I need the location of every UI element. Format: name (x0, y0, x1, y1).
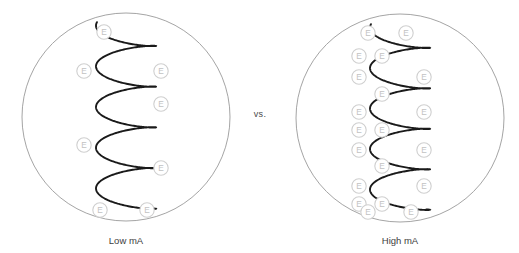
electron-marker: E (375, 49, 389, 63)
electron-marker: E (375, 159, 389, 173)
electron-label: E (408, 207, 414, 217)
electron-label: E (421, 145, 427, 155)
electron-label: E (365, 28, 371, 38)
electron-marker: E (417, 143, 431, 157)
figure-canvas: EEEEEEEEEEEEEEEEEEEEEEEEEEEE vs. Low mA … (0, 0, 519, 253)
electron-label: E (81, 66, 87, 76)
electron-marker: E (352, 49, 366, 63)
electron-marker: E (93, 203, 107, 217)
electron-label: E (144, 205, 150, 215)
panel-caption-low-ma: Low mA (41, 235, 211, 246)
electron-marker: E (352, 105, 366, 119)
electron-marker: E (154, 161, 168, 175)
electron-marker: E (361, 26, 375, 40)
electron-label: E (356, 199, 362, 209)
electron-label: E (421, 181, 427, 191)
electron-marker: E (154, 64, 168, 78)
electron-label: E (403, 28, 409, 38)
electron-marker: E (352, 179, 366, 193)
electron-label: E (379, 51, 385, 61)
panel-low-ma: EEEEEEEE (22, 13, 230, 221)
electron-label: E (81, 140, 87, 150)
vs-separator-label: vs. (238, 109, 282, 119)
electron-label: E (379, 125, 385, 135)
electron-marker: E (77, 138, 91, 152)
electron-label: E (379, 199, 385, 209)
electron-label: E (379, 89, 385, 99)
electron-marker: E (140, 203, 154, 217)
panel-high-ma: EEEEEEEEEEEEEEEEEEEE (296, 14, 504, 222)
electron-label: E (356, 107, 362, 117)
electron-marker: E (375, 197, 389, 211)
electron-label: E (97, 205, 103, 215)
comparison-diagram: EEEEEEEEEEEEEEEEEEEEEEEEEEEE (0, 0, 519, 253)
electron-marker: E (375, 87, 389, 101)
electron-label: E (421, 107, 427, 117)
electron-label: E (356, 145, 362, 155)
electron-label: E (356, 72, 362, 82)
panel-caption-high-ma: High mA (315, 235, 485, 246)
electron-label: E (158, 99, 164, 109)
electron-marker: E (399, 26, 413, 40)
electron-marker: E (77, 64, 91, 78)
electron-label: E (356, 125, 362, 135)
electron-marker: E (404, 205, 418, 219)
electron-label: E (158, 163, 164, 173)
electron-marker: E (417, 105, 431, 119)
electron-label: E (365, 207, 371, 217)
electron-marker: E (375, 123, 389, 137)
electron-marker: E (417, 70, 431, 84)
electron-marker: E (361, 205, 375, 219)
electron-label: E (356, 181, 362, 191)
electron-label: E (379, 161, 385, 171)
electron-marker: E (352, 143, 366, 157)
electron-label: E (101, 27, 107, 37)
electron-marker: E (352, 123, 366, 137)
electron-label: E (356, 51, 362, 61)
electron-label: E (158, 66, 164, 76)
electron-marker: E (417, 179, 431, 193)
body-outline-low-ma (22, 13, 230, 221)
electron-label: E (421, 72, 427, 82)
electron-marker: E (97, 25, 111, 39)
electron-marker: E (154, 97, 168, 111)
electron-marker: E (352, 70, 366, 84)
